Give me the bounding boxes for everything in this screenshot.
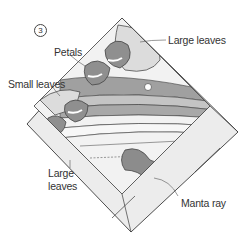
label-large-leaves-bottom-1: Large (48, 168, 74, 179)
label-small-leaves: Small leaves (8, 79, 65, 90)
label-petals: Petals (54, 47, 82, 58)
label-large-leaves-top: Large leaves (168, 35, 226, 46)
label-manta-ray: Manta ray (181, 198, 226, 209)
step-number-badge: 3 (34, 24, 47, 37)
label-large-leaves-bottom-2: leaves (48, 181, 77, 192)
sun (145, 84, 152, 91)
